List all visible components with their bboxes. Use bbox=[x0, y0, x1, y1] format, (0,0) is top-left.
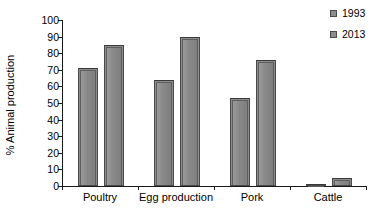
bar-face bbox=[182, 39, 198, 185]
y-axis-tick-label: 10 bbox=[47, 164, 59, 175]
legend-label: 1993 bbox=[342, 8, 365, 19]
y-axis-tick-label: 60 bbox=[47, 81, 59, 92]
y-axis-tick-label: 80 bbox=[47, 48, 59, 59]
y-axis-tick-label: 50 bbox=[47, 98, 59, 109]
bar-face bbox=[80, 70, 96, 185]
legend-item-1993[interactable]: 1993 bbox=[330, 8, 386, 19]
y-axis-tick-label: 70 bbox=[47, 65, 59, 76]
bar-face bbox=[156, 82, 172, 185]
y-axis-tick-label: 40 bbox=[47, 114, 59, 125]
y-axis-tick-label: 30 bbox=[47, 131, 59, 142]
x-axis-tick-label: Cattle bbox=[314, 192, 343, 203]
bar-face bbox=[308, 186, 324, 187]
bar-2013-poultry[interactable] bbox=[104, 45, 124, 186]
y-axis-tick-label: 0 bbox=[53, 181, 59, 192]
plot-area: 1009080706050403020100 PoultryEgg produc… bbox=[62, 20, 366, 186]
legend-swatch-icon bbox=[330, 31, 337, 38]
bar-face bbox=[232, 100, 248, 185]
legend-label: 2013 bbox=[342, 29, 365, 40]
y-axis-title: % Animal production bbox=[2, 0, 18, 210]
x-axis-tick-mark bbox=[366, 186, 367, 190]
x-axis-tick-label: Poultry bbox=[83, 192, 117, 203]
bar-chart: % Animal production 10090807060504030201… bbox=[0, 0, 388, 210]
legend-swatch-icon bbox=[330, 10, 337, 17]
x-axis-tick-mark bbox=[290, 186, 291, 190]
bar-1993-pork[interactable] bbox=[230, 98, 250, 186]
x-axis-tick-mark bbox=[214, 186, 215, 190]
bar-group bbox=[154, 20, 200, 186]
y-axis-tick-label: 90 bbox=[47, 31, 59, 42]
bars-layer bbox=[63, 20, 366, 186]
legend-item-2013[interactable]: 2013 bbox=[330, 29, 386, 40]
bar-group bbox=[230, 20, 276, 186]
bar-face bbox=[258, 62, 274, 185]
bar-2013-pork[interactable] bbox=[256, 60, 276, 186]
bar-1993-cattle[interactable] bbox=[306, 184, 326, 186]
bar-face bbox=[334, 180, 350, 185]
x-axis-tick-mark bbox=[62, 186, 63, 190]
y-axis-tick-label: 100 bbox=[41, 15, 59, 26]
x-axis-tick-label: Pork bbox=[241, 192, 264, 203]
bar-2013-cattle[interactable] bbox=[332, 178, 352, 186]
bar-face bbox=[106, 47, 122, 185]
bar-group bbox=[78, 20, 124, 186]
x-axis-tick-label: Egg production bbox=[139, 192, 213, 203]
legend: 19932013 bbox=[330, 8, 386, 50]
bar-2013-egg-production[interactable] bbox=[180, 37, 200, 186]
bar-1993-poultry[interactable] bbox=[78, 68, 98, 186]
y-axis-tick-label: 20 bbox=[47, 148, 59, 159]
x-axis-tick-mark bbox=[138, 186, 139, 190]
bar-1993-egg-production[interactable] bbox=[154, 80, 174, 186]
